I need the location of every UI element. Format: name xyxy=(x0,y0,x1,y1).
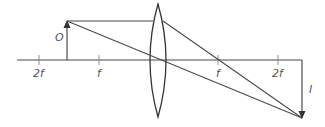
ray-diagram: O I 2f f f 2f xyxy=(0,0,325,127)
image-label: I xyxy=(309,83,312,96)
ray-diagram-canvas: O I 2f f f 2f xyxy=(0,0,325,127)
label-left-f: f xyxy=(97,67,103,80)
label-left-2f: 2f xyxy=(33,67,46,80)
object-label: O xyxy=(55,31,64,44)
image-arrowhead-icon xyxy=(299,111,306,119)
label-right-f: f xyxy=(216,67,222,80)
label-right-2f: 2f xyxy=(272,67,285,80)
